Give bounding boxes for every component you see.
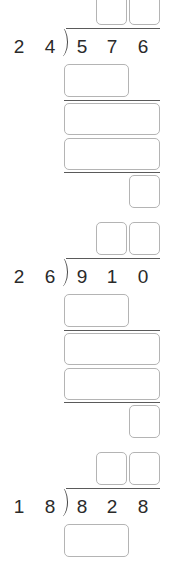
dividend-digit: 8 — [135, 496, 151, 518]
division-problem-3: 1 8 8 2 8 — [0, 452, 182, 561]
subtraction-line — [64, 172, 160, 173]
division-problem-1: 2 4 5 7 6 — [0, 0, 182, 222]
division-bracket-icon — [63, 29, 71, 57]
first-difference-input[interactable] — [64, 103, 160, 135]
first-product-input[interactable] — [64, 294, 129, 327]
divisor-digit: 2 — [11, 266, 27, 288]
dividend-digit: 0 — [135, 266, 151, 288]
remainder-input[interactable] — [129, 175, 160, 208]
division-bar — [66, 28, 160, 29]
division-bracket-icon — [63, 259, 71, 287]
quotient-tens-input[interactable] — [96, 452, 127, 485]
dividend-digit: 6 — [135, 36, 151, 58]
divisor-digit: 1 — [11, 496, 27, 518]
dividend-digit: 7 — [104, 36, 120, 58]
subtraction-line — [64, 330, 160, 331]
first-product-input[interactable] — [64, 64, 129, 97]
quotient-ones-input[interactable] — [129, 452, 160, 485]
subtraction-line — [64, 100, 160, 101]
quotient-tens-input[interactable] — [96, 222, 127, 255]
division-problem-2: 2 6 9 1 0 — [0, 222, 182, 452]
second-product-input[interactable] — [64, 138, 160, 170]
division-bar — [66, 488, 160, 489]
divisor-digit: 4 — [42, 36, 58, 58]
dividend-digit: 9 — [74, 266, 90, 288]
remainder-input[interactable] — [129, 405, 160, 438]
division-bracket-icon — [63, 489, 71, 517]
first-product-input[interactable] — [64, 524, 129, 557]
divisor-digit: 2 — [11, 36, 27, 58]
divisor-digit: 6 — [42, 266, 58, 288]
quotient-ones-input[interactable] — [129, 0, 160, 25]
division-bar — [66, 258, 160, 259]
dividend-digit: 5 — [74, 36, 90, 58]
subtraction-line — [64, 402, 160, 403]
second-product-input[interactable] — [64, 368, 160, 400]
dividend-digit: 1 — [104, 266, 120, 288]
dividend-digit: 2 — [104, 496, 120, 518]
first-difference-input[interactable] — [64, 333, 160, 365]
divisor-digit: 8 — [42, 496, 58, 518]
dividend-digit: 8 — [74, 496, 90, 518]
quotient-tens-input[interactable] — [96, 0, 127, 25]
quotient-ones-input[interactable] — [129, 222, 160, 255]
